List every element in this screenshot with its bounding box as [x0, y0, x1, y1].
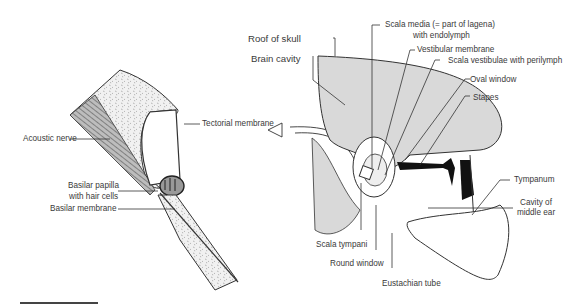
- label-basilar-papilla: Basilar papilla: [68, 181, 119, 191]
- basilar-papilla-section: [70, 70, 238, 290]
- label-tectorial-membrane: Tectorial membrane: [202, 119, 274, 129]
- label-scala-vestibulae: Scala vestibulae with perilymph: [448, 56, 562, 66]
- label-scala-media: Scala media (= part of lagena): [385, 20, 495, 30]
- label-acoustic-nerve: Acoustic nerve: [23, 134, 77, 144]
- label-eustachian-tube: Eustachian tube: [382, 279, 441, 289]
- stapes-icon: [397, 158, 455, 186]
- label-vestibular-membrane: Vestibular membrane: [417, 45, 494, 55]
- label-roof-of-skull: Roof of skull: [248, 33, 301, 45]
- label-scala-tympani: Scala tympani: [316, 240, 367, 250]
- label-tympanum: Tympanum: [514, 175, 555, 185]
- label-stapes: Stapes: [473, 93, 499, 103]
- label-brain-cavity: Brain cavity: [251, 53, 301, 65]
- label-round-window: Round window: [330, 259, 384, 269]
- label-endolymph: with endolymph: [413, 31, 470, 41]
- label-basilar-membrane: Basilar membrane: [50, 204, 116, 214]
- label-oval-window: Oval window: [470, 75, 516, 85]
- label-hair-cells: with hair cells: [69, 192, 118, 202]
- label-cavity-of-middle-ear: Cavity of middle ear: [513, 198, 559, 218]
